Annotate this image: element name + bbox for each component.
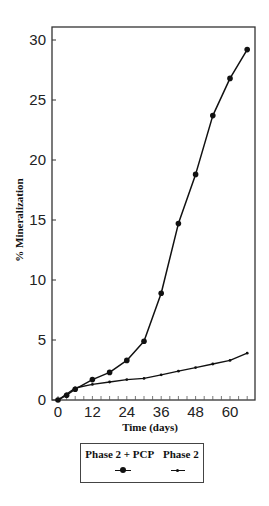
series-layer	[55, 47, 250, 403]
y-tick-label: 20	[29, 151, 46, 168]
data-point	[160, 373, 163, 376]
y-axis-title: % Mineralization	[13, 178, 25, 261]
plot-frame	[52, 27, 255, 400]
legend-label-phase2: Phase 2	[163, 448, 199, 460]
data-point	[74, 387, 77, 390]
y-tick-label: 5	[38, 331, 46, 348]
y-tick-label: 25	[29, 91, 46, 108]
data-point	[246, 352, 249, 355]
data-point	[158, 290, 164, 296]
data-point	[143, 377, 146, 380]
data-point	[124, 358, 130, 364]
data-point	[194, 366, 197, 369]
x-tick-label: 0	[54, 403, 62, 420]
x-tick-label: 48	[187, 403, 204, 420]
data-point	[193, 172, 199, 178]
x-tick-label: 24	[118, 403, 135, 420]
legend-label-phase2-pcp: Phase 2 + PCP	[85, 448, 154, 460]
data-point	[108, 381, 111, 384]
data-point	[107, 370, 113, 376]
series-line-phase2-pcp	[58, 50, 247, 400]
data-point	[211, 363, 214, 366]
data-point	[227, 76, 233, 82]
plot-border	[52, 27, 255, 400]
data-point	[91, 383, 94, 386]
y-tick-label: 0	[38, 391, 46, 408]
x-tick-label: 12	[84, 403, 101, 420]
data-point	[57, 399, 60, 402]
y-tick-label: 30	[29, 31, 46, 48]
x-tick-label: 36	[153, 403, 170, 420]
data-point	[141, 338, 147, 344]
mineralization-chart: 051015202530 01224364860 Time (days) % M…	[0, 0, 269, 506]
y-tick-label: 15	[29, 211, 46, 228]
data-point	[177, 370, 180, 373]
data-point	[125, 378, 128, 381]
series-line-phase2	[58, 353, 247, 400]
data-point	[229, 359, 232, 362]
data-point	[90, 377, 96, 383]
x-axis-title: Time (days)	[122, 421, 178, 434]
data-point	[176, 221, 182, 227]
data-point	[210, 113, 216, 119]
legend: Phase 2 + PCP Phase 2	[80, 443, 204, 483]
legend-dot-phase2	[176, 469, 179, 472]
legend-dot-phase2-pcp	[120, 467, 126, 473]
data-point	[65, 393, 68, 396]
x-tick-label: 60	[222, 403, 239, 420]
y-tick-label: 10	[29, 271, 46, 288]
data-point	[244, 47, 250, 53]
